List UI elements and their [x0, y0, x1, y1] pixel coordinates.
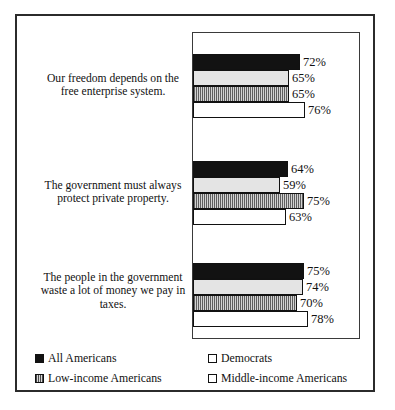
bar-middle-income-0[interactable] [193, 102, 305, 118]
bar-group-1: 64% 59% 75% 63% [193, 161, 359, 225]
table-row: 63% [193, 209, 359, 225]
bar-low-income-1[interactable] [193, 193, 304, 209]
legend-row: Low-income Americans Middle-income Ameri… [35, 368, 365, 388]
legend-label: All Americans [48, 351, 116, 366]
legend-label: Middle-income Americans [221, 371, 347, 386]
legend-label: Low-income Americans [48, 371, 162, 386]
legend-label: Democrats [221, 351, 272, 366]
table-row: 75% [193, 263, 359, 279]
table-row: 74% [193, 279, 359, 295]
bar-value-label: 63% [286, 210, 312, 225]
bar-value-label: 65% [289, 71, 315, 86]
category-label-1: The government must always protect priva… [37, 179, 189, 206]
bar-value-label: 75% [304, 194, 330, 209]
bar-value-label: 72% [300, 55, 326, 70]
legend-swatch-icon [35, 374, 44, 383]
bar-low-income-2[interactable] [193, 295, 297, 311]
bar-all-americans-2[interactable] [193, 263, 304, 279]
table-row: 76% [193, 102, 359, 118]
bar-group-2: 75% 74% 70% 78% [193, 263, 359, 327]
bar-value-label: 74% [303, 280, 329, 295]
legend-item-middle-income-americans[interactable]: Middle-income Americans [192, 371, 365, 386]
bar-value-label: 76% [305, 103, 331, 118]
bar-all-americans-1[interactable] [193, 161, 288, 177]
legend-item-low-income-americans[interactable]: Low-income Americans [35, 371, 192, 386]
bar-group-0: 72% 65% 65% 76% [193, 54, 359, 118]
legend-item-all-americans[interactable]: All Americans [35, 351, 192, 366]
category-label-2: The people in the government waste a lot… [37, 271, 189, 311]
bar-democrats-0[interactable] [193, 70, 289, 86]
legend-row: All Americans Democrats [35, 348, 365, 368]
table-row: 70% [193, 295, 359, 311]
bar-democrats-1[interactable] [193, 177, 280, 193]
bar-value-label: 70% [297, 296, 323, 311]
table-row: 75% [193, 193, 359, 209]
bar-middle-income-1[interactable] [193, 209, 286, 225]
bar-value-label: 59% [280, 178, 306, 193]
category-label-0: Our freedom depends on the free enterpri… [37, 72, 189, 99]
legend-swatch-icon [35, 354, 44, 363]
bar-value-label: 78% [308, 312, 334, 327]
legend-item-democrats[interactable]: Democrats [192, 351, 365, 366]
chart-legend: All Americans Democrats Low-income Ameri… [35, 348, 365, 388]
table-row: 65% [193, 86, 359, 102]
legend-swatch-icon [208, 354, 217, 363]
plot-area: 72% 65% 65% 76% 64% 59% [192, 32, 360, 339]
table-row: 59% [193, 177, 359, 193]
bar-all-americans-0[interactable] [193, 54, 300, 70]
bar-middle-income-2[interactable] [193, 311, 308, 327]
table-row: 72% [193, 54, 359, 70]
bar-democrats-2[interactable] [193, 279, 303, 295]
table-row: 65% [193, 70, 359, 86]
bar-value-label: 65% [289, 87, 315, 102]
chart-frame: Our freedom depends on the free enterpri… [15, 14, 375, 392]
table-row: 64% [193, 161, 359, 177]
bar-low-income-0[interactable] [193, 86, 289, 102]
bar-value-label: 75% [304, 264, 330, 279]
bar-value-label: 64% [288, 162, 314, 177]
legend-swatch-icon [208, 374, 217, 383]
table-row: 78% [193, 311, 359, 327]
